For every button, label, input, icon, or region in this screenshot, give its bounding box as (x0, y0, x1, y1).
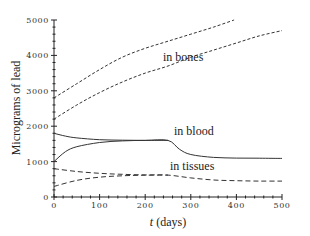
y-tick-label: 4000 (26, 51, 49, 60)
y-tick-label: 3000 (26, 87, 49, 96)
x-tick-label: 400 (228, 201, 245, 210)
y-axis: 0 1000 2000 3000 4000 5000 (26, 16, 57, 202)
x-tick-label: 300 (182, 201, 199, 210)
x-axis: 0 100 200 300 400 500 (51, 194, 290, 210)
label-in-tissues: in tissues (170, 159, 215, 173)
curve-in-bones-upper (54, 20, 234, 98)
x-tick-label: 200 (137, 201, 154, 210)
y-tick-label: 5000 (26, 16, 49, 25)
x-tick-label: 500 (273, 201, 290, 210)
x-tick-label: 100 (91, 201, 108, 210)
curve-in-blood-lower (54, 140, 168, 161)
curve-in-blood-upper (54, 133, 282, 158)
y-tick-label: 1000 (26, 158, 49, 167)
label-in-bones: in bones (163, 50, 204, 64)
x-tick-label: 0 (51, 201, 57, 210)
curve-in-tissues-upper (54, 169, 282, 181)
y-axis-tick-labels: 0 1000 2000 3000 4000 5000 (26, 16, 49, 202)
curve-in-tissues-lower (54, 175, 168, 186)
label-in-blood: in blood (174, 124, 214, 138)
y-tick-label: 0 (43, 193, 49, 202)
curve-in-bones-lower (54, 31, 282, 120)
curves (54, 20, 282, 186)
x-axis-tick-labels: 0 100 200 300 400 500 (51, 201, 290, 210)
x-axis-title: t (days) (150, 215, 186, 229)
y-tick-label: 2000 (26, 122, 49, 131)
x-axis-title-units: (days) (153, 215, 186, 229)
y-axis-title: Micrograms of lead (9, 61, 23, 156)
lead-distribution-chart: 0 1000 2000 3000 4000 5000 0 100 200 300… (0, 0, 310, 236)
